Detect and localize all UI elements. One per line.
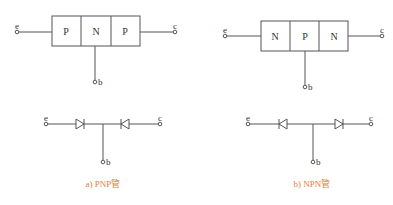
npn-eq-base-terminal xyxy=(311,160,315,164)
npn-base-terminal xyxy=(303,85,307,89)
npn-caption: b) NPN管 xyxy=(294,178,331,189)
npn-diode-2-icon xyxy=(335,119,343,129)
npn-region-3: N xyxy=(330,31,337,42)
pnp-diode-1-icon xyxy=(76,119,84,129)
npn-collector-label: c xyxy=(380,25,384,35)
npn-eq-collector-label: c xyxy=(369,113,373,123)
npn-diode-1-icon xyxy=(279,119,287,129)
pnp-region-3: P xyxy=(122,26,128,37)
npn-eq-emitter-label: e xyxy=(246,113,250,123)
pnp-emitter-label: e xyxy=(15,21,19,31)
npn-region-2: P xyxy=(302,31,308,42)
transistor-structure-diagram: P N P e c b N P N e c b e c b e c b a) P… xyxy=(0,0,393,205)
pnp-region-1: P xyxy=(63,26,69,37)
npn-eq-base-label: b xyxy=(316,157,321,167)
npn-equivalent xyxy=(246,119,373,164)
pnp-base-label: b xyxy=(98,77,103,87)
pnp-base-terminal xyxy=(93,80,97,84)
pnp-region-2: N xyxy=(92,26,99,37)
pnp-diode-2-icon xyxy=(121,119,129,129)
pnp-eq-base-terminal xyxy=(101,160,105,164)
pnp-collector-label: c xyxy=(173,21,177,31)
npn-base-label: b xyxy=(308,82,313,92)
pnp-caption: a) PNP管 xyxy=(86,178,121,189)
npn-region-1: N xyxy=(271,31,278,42)
pnp-eq-base-label: b xyxy=(106,157,111,167)
npn-emitter-label: e xyxy=(223,25,227,35)
pnp-equivalent xyxy=(44,119,162,164)
pnp-eq-emitter-label: e xyxy=(44,113,48,123)
pnp-eq-collector-label: c xyxy=(158,113,162,123)
